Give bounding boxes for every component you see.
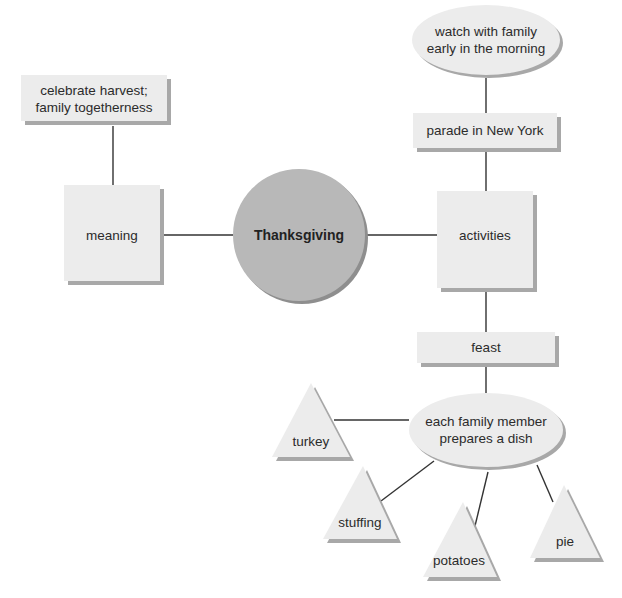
node-parade-detail: watch with family early in the morning bbox=[412, 5, 563, 78]
feast-detail-line1: each family member bbox=[425, 414, 547, 429]
dish-label-stuffing: stuffing bbox=[338, 515, 381, 530]
dish-label-turkey: turkey bbox=[293, 434, 330, 449]
edge-detail-potatoes bbox=[475, 472, 488, 526]
node-parade: parade in New York bbox=[413, 113, 561, 152]
node-feast: feast bbox=[417, 332, 559, 367]
node-activities: activities bbox=[437, 191, 537, 292]
node-feast-detail: each family member prepares a dish bbox=[409, 393, 566, 470]
edge-detail-pie bbox=[537, 465, 553, 502]
node-dish-stuffing: stuffing bbox=[323, 466, 401, 543]
concept-map: celebrate harvest; family togetherness m… bbox=[0, 0, 622, 598]
node-dish-pie: pie bbox=[530, 485, 604, 562]
parade-detail-line2: early in the morning bbox=[427, 41, 546, 56]
parade-detail-line1: watch with family bbox=[434, 24, 537, 39]
node-dish-potatoes: potatoes bbox=[423, 502, 501, 581]
feast-label: feast bbox=[471, 340, 501, 355]
node-dish-turkey: turkey bbox=[272, 383, 354, 461]
node-meaning: meaning bbox=[64, 185, 164, 285]
node-meaning-detail: celebrate harvest; family togetherness bbox=[21, 75, 171, 125]
activities-label: activities bbox=[459, 228, 511, 243]
center-label: Thanksgiving bbox=[254, 227, 344, 243]
dish-label-potatoes: potatoes bbox=[433, 553, 485, 568]
parade-label: parade in New York bbox=[426, 123, 543, 138]
feast-detail-line2: prepares a dish bbox=[439, 431, 532, 446]
meaning-label: meaning bbox=[86, 228, 138, 243]
dish-label-pie: pie bbox=[556, 534, 574, 549]
meaning-detail-line1: celebrate harvest; bbox=[40, 83, 147, 98]
edge-detail-stuffing bbox=[381, 461, 434, 501]
meaning-detail-line2: family togetherness bbox=[35, 100, 152, 115]
node-center-thanksgiving: Thanksgiving bbox=[233, 169, 368, 304]
